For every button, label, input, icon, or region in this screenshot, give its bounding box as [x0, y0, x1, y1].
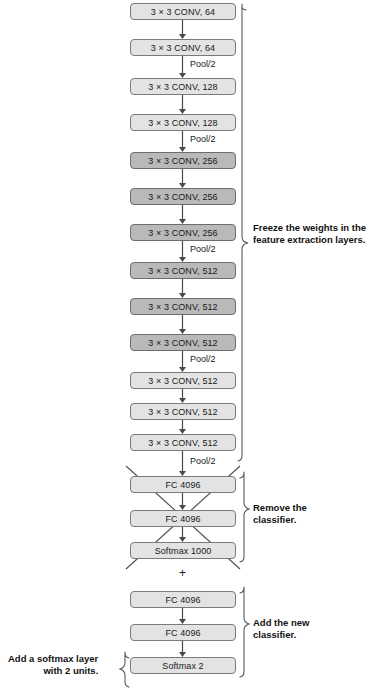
layer-block-conv4_2: 3 × 3 CONV, 512 [130, 298, 236, 315]
layer-block-conv5_1: 3 × 3 CONV, 512 [130, 372, 236, 389]
layer-block-conv1_2: 3 × 3 CONV, 64 [130, 39, 236, 56]
bracket-remove [240, 472, 249, 562]
pool-label-pool2: Pool/2 [190, 134, 216, 144]
layer-block-conv3_3: 3 × 3 CONV, 256 [130, 224, 236, 241]
annotation-line: Add a softmax layer [8, 653, 98, 665]
annotation-line: classifier. [253, 514, 307, 526]
pool-label-pool3: Pool/2 [190, 244, 216, 254]
pool-label-pool1: Pool/2 [190, 59, 216, 69]
layer-block-conv2_1: 3 × 3 CONV, 128 [130, 78, 236, 95]
annotation-freeze: Freeze the weights in thefeature extract… [253, 222, 366, 246]
layer-block-conv5_3: 3 × 3 CONV, 512 [130, 434, 236, 451]
annotation-line: with 2 units. [8, 665, 98, 677]
plus-symbol: + [179, 566, 186, 580]
layer-block-old_softmax: Softmax 1000 [130, 542, 236, 559]
annotation-line: Freeze the weights in the [253, 222, 366, 234]
annotation-line: feature extraction layers. [253, 234, 366, 246]
bracket-add-softmax [120, 652, 129, 687]
layer-block-conv3_1: 3 × 3 CONV, 256 [130, 152, 236, 169]
diagram-canvas: 3 × 3 CONV, 643 × 3 CONV, 643 × 3 CONV, … [0, 0, 377, 696]
annotation-line: Add the new [253, 617, 309, 629]
layer-block-conv3_2: 3 × 3 CONV, 256 [130, 188, 236, 205]
layer-block-new_fc2: FC 4096 [130, 624, 236, 641]
layer-block-old_fc1: FC 4096 [130, 476, 236, 493]
annotation-line: classifier. [253, 629, 309, 641]
annotation-add_softmax: Add a softmax layerwith 2 units. [8, 653, 98, 677]
layer-block-conv1_1: 3 × 3 CONV, 64 [130, 3, 236, 20]
layer-block-conv4_1: 3 × 3 CONV, 512 [130, 262, 236, 279]
pool-label-pool4: Pool/2 [190, 354, 216, 364]
annotation-line: Remove the [253, 502, 307, 514]
pool-label-pool5: Pool/2 [190, 456, 216, 466]
layer-block-conv5_2: 3 × 3 CONV, 512 [130, 403, 236, 420]
layer-block-old_fc2: FC 4096 [130, 510, 236, 527]
bracket-add-new [240, 587, 249, 677]
layer-block-new_fc1: FC 4096 [130, 591, 236, 608]
annotation-remove: Remove theclassifier. [253, 502, 307, 526]
layer-block-conv4_3: 3 × 3 CONV, 512 [130, 334, 236, 351]
bracket-freeze [238, 4, 248, 461]
annotation-add_new: Add the newclassifier. [253, 617, 309, 641]
layer-block-new_softmax: Softmax 2 [130, 657, 236, 674]
layer-block-conv2_2: 3 × 3 CONV, 128 [130, 114, 236, 131]
